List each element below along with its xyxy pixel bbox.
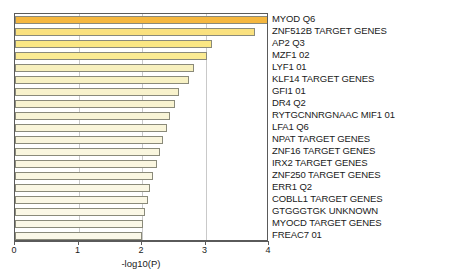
bar-row [15,38,268,50]
bar-row [15,170,268,182]
bar[interactable] [15,184,150,193]
enrichment-bar-chart: 01234 -log10(P) MYOD Q6ZNF512B TARGET GE… [0,0,454,278]
bar-row [15,218,268,230]
x-tick-label: 2 [138,245,143,256]
bar[interactable] [15,100,175,109]
x-tick-label: 4 [265,245,270,256]
category-label: ZNF512B TARGET GENES [272,25,454,37]
category-label: FREAC7 01 [272,229,454,241]
bar[interactable] [15,28,255,37]
bar[interactable] [15,64,194,73]
bar[interactable] [15,136,163,145]
bar-row [15,62,268,74]
category-label: IRX2 TARGET GENES [272,157,454,169]
bar[interactable] [15,52,207,61]
bar[interactable] [15,16,268,25]
bar[interactable] [15,160,157,169]
category-label: ZNF250 TARGET GENES [272,169,454,181]
plot-area [14,13,268,241]
bar[interactable] [15,220,143,229]
bar-row [15,230,268,241]
category-label: GTGGGTGK UNKNOWN [272,205,454,217]
bar-row [15,110,268,122]
bar-row [15,182,268,194]
bar[interactable] [15,76,189,85]
bar-row [15,134,268,146]
bar-row [15,158,268,170]
bar[interactable] [15,148,160,157]
category-label: LYF1 01 [272,61,454,73]
bar[interactable] [15,40,212,49]
bar[interactable] [15,196,148,205]
category-label: KLF14 TARGET GENES [272,73,454,85]
category-label: MYOCD TARGET GENES [272,217,454,229]
category-label: AP2 Q3 [272,37,454,49]
bar-row [15,14,268,26]
bar-row [15,74,268,86]
bar-row [15,26,268,38]
bar[interactable] [15,208,145,217]
category-label-list: MYOD Q6ZNF512B TARGET GENESAP2 Q3MZF1 02… [272,13,454,241]
category-label: ZNF16 TARGET GENES [272,145,454,157]
category-label: NPAT TARGET GENES [272,133,454,145]
x-tick-label: 1 [75,245,80,256]
bar[interactable] [15,172,153,181]
category-label: RYTGCNNRGNAAC MIF1 01 [272,109,454,121]
bar-row [15,122,268,134]
category-label: MZF1 02 [272,49,454,61]
x-tick-label: 3 [202,245,207,256]
bar[interactable] [15,88,179,97]
bar-row [15,86,268,98]
bar-row [15,206,268,218]
category-label: DR4 Q2 [272,97,454,109]
bar[interactable] [15,124,167,133]
bar-row [15,146,268,158]
bar-row [15,50,268,62]
category-label: LFA1 Q6 [272,121,454,133]
x-tick-label: 0 [11,245,16,256]
category-label: MYOD Q6 [272,13,454,25]
bar[interactable] [15,232,142,241]
x-axis-title: -log10(P) [14,258,268,269]
bar-row [15,194,268,206]
category-label: COBLL1 TARGET GENES [272,193,454,205]
bar[interactable] [15,112,170,121]
category-label: ERR1 Q2 [272,181,454,193]
bar-row [15,98,268,110]
category-label: GFI1 01 [272,85,454,97]
